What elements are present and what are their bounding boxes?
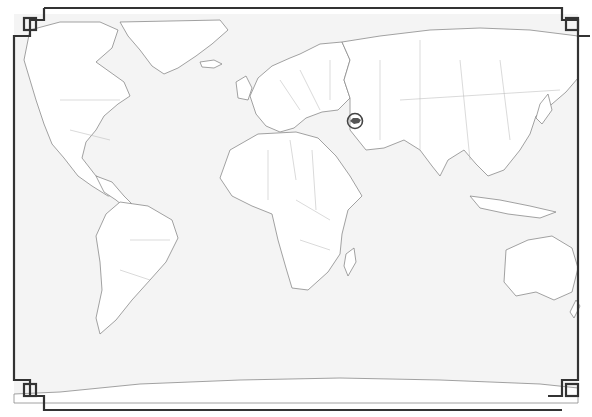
land-australia: [504, 236, 578, 300]
world-map: [0, 0, 592, 417]
